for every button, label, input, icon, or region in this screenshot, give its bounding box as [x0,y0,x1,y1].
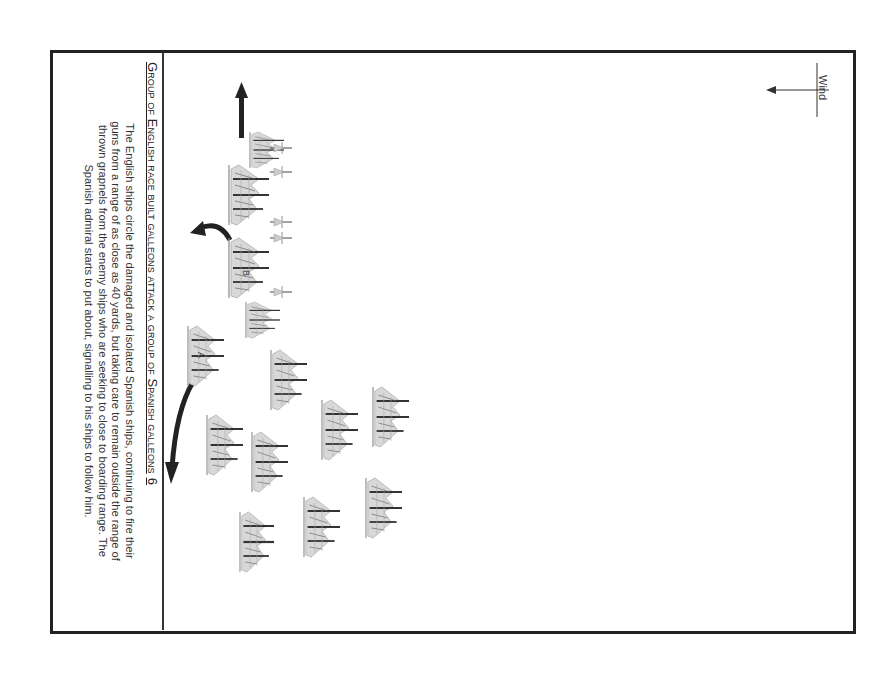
wind-direction-arrow-icon [766,63,829,117]
english-ship-b: B [229,238,269,298]
small-ship [270,166,292,178]
english-ship [229,165,269,225]
small-ship [270,142,292,154]
ship-label-b: B [241,270,251,276]
small-ship [270,232,292,244]
english-ship [246,302,280,338]
small-ship [270,216,292,228]
spanish-ship [373,387,409,447]
battle-map: B A [0,0,896,676]
straight-arrow-icon [235,82,248,138]
spanish-ship-a: A [188,326,224,386]
spanish-ship [207,415,243,475]
spanish-ship [366,478,402,538]
curved-arrow-a-icon [165,382,193,484]
spanish-ship [252,432,288,492]
spanish-ship [271,350,307,410]
spanish-ship [322,400,358,460]
ship-label-a: A [196,352,206,358]
spanish-ship [240,512,274,572]
spanish-ship [304,497,340,557]
small-ship [270,286,292,298]
curved-arrow-b-icon [190,221,230,240]
